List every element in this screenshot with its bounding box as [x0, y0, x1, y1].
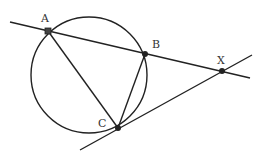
point-c-marker — [115, 125, 121, 131]
label-a: A — [40, 12, 50, 25]
tangent-line-cx — [80, 55, 252, 150]
label-c: C — [98, 117, 106, 130]
segment-ac — [48, 31, 118, 128]
geometry-diagram: A B C X — [0, 0, 265, 162]
point-x-marker — [219, 68, 225, 74]
point-b-marker — [142, 51, 148, 57]
label-x: X — [217, 54, 225, 67]
label-b: B — [152, 38, 160, 51]
point-a-marker — [45, 28, 51, 34]
circle — [31, 17, 147, 133]
